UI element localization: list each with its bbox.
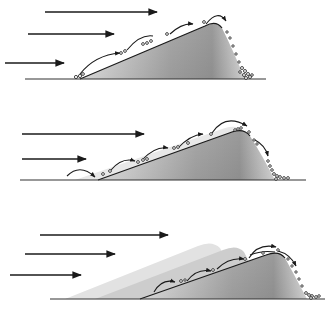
stage-3-panel — [10, 235, 325, 299]
stage-1-panel — [5, 12, 266, 80]
diagram-canvas — [0, 0, 334, 310]
stage-2-panel — [20, 121, 306, 181]
dune-migration-diagram — [0, 0, 334, 310]
